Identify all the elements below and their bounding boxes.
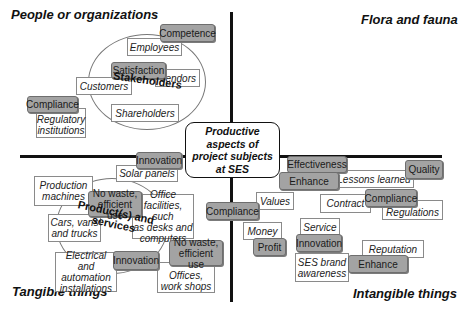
innovation-box-solar: Innovation [136,152,182,169]
profit-box: Profit [253,238,286,256]
quadrant-title-flora: Flora and fauna [361,12,458,27]
quality-box: Quality [405,160,443,179]
no-waste-box-offices: No waste, efficient use [169,240,223,266]
innovation-box-service: Innovation [296,234,342,252]
innovation-box-electrical: Innovation [113,251,159,270]
competence-box: Competence [160,24,215,42]
ses-productive-aspects-diagram: People or organizations Flora and fauna … [0,0,463,315]
ses-brand-awareness-box: SES brand awareness [295,253,349,282]
enhance-box-lessons: Enhance [279,172,339,190]
compliance-box-contract: Compliance [365,189,417,207]
values-box: Values [256,192,294,210]
central-topic-box: Productive aspects of project subjects a… [185,122,280,178]
contract-box: Contract [320,194,371,213]
electrical-installations-box: Electrical and automation installations [55,252,117,292]
shareholders-box: Shareholders [111,104,179,122]
compliance-box-people: Compliance [27,96,78,113]
lessons-learned-box: Lessons learned [334,170,414,188]
enhance-box-reputation: Enhance [348,255,408,273]
quadrant-title-intangible: Intangible things [353,286,457,301]
effectiveness-box: Effectiveness [287,156,347,173]
compliance-box-values: Compliance [206,202,259,220]
quadrant-title-people: People or organizations [11,7,158,22]
